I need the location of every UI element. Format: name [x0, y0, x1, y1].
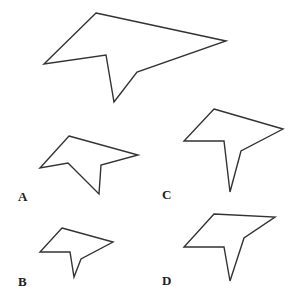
puzzle-figure: A C B D	[0, 0, 300, 294]
option-a-label: A	[18, 189, 28, 204]
option-d-label: D	[162, 273, 171, 288]
option-d-shape[interactable]	[184, 214, 275, 281]
reference-shape	[44, 13, 226, 102]
option-b-shape[interactable]	[40, 228, 113, 277]
option-b-label: B	[18, 274, 27, 289]
option-a-shape[interactable]	[40, 136, 138, 194]
option-c-shape[interactable]	[184, 109, 283, 192]
option-c-label: C	[162, 187, 171, 202]
